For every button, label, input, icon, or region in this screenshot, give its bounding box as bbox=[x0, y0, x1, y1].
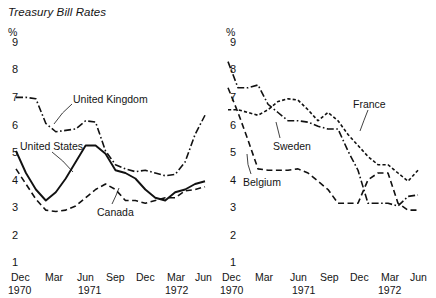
leader-belgium bbox=[247, 154, 251, 174]
chart-panel-left: % 9 8 7 6 5 4 3 2 1 Dec Mar Jun Sep Dec … bbox=[0, 0, 218, 298]
series-line-belgium bbox=[228, 88, 418, 210]
series-line-france bbox=[228, 99, 418, 182]
leader-united-kingdom bbox=[54, 104, 72, 124]
leader-canada bbox=[112, 188, 119, 204]
leader-united-states bbox=[52, 152, 73, 172]
plot-area-left bbox=[0, 0, 218, 298]
treasury-bill-rates-figure: Treasury Bill Rates % 9 8 7 6 5 4 3 2 1 … bbox=[0, 0, 436, 298]
series-line-canada bbox=[16, 169, 205, 212]
chart-panel-right: % 9 8 7 6 5 4 3 2 1 Dec Mar Jun Sep Dec … bbox=[218, 0, 436, 298]
plot-area-right bbox=[218, 0, 436, 298]
leader-france bbox=[360, 110, 368, 131]
series-line-united-kingdom bbox=[16, 97, 205, 175]
leader-sweden bbox=[276, 122, 280, 138]
